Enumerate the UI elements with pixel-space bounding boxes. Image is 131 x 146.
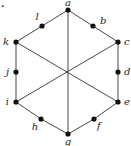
vertex-j (13, 69, 18, 74)
vertex-a (65, 7, 70, 12)
edge-h-i (16, 102, 41, 119)
vertex-label-h: h (32, 121, 38, 132)
vertex-label-c: c (124, 36, 130, 47)
edges-group (16, 10, 118, 134)
edge-g-h (41, 119, 68, 134)
vertex-label-d: d (124, 66, 130, 77)
vertex-label-a: a (65, 0, 71, 8)
edge-b-c (93, 26, 118, 42)
vertex-label-l: l (35, 11, 38, 22)
vertex-label-j: j (4, 66, 9, 77)
hexagon-graph-diagram: . abcdefghijkl (0, 0, 131, 146)
vertex-h (38, 116, 43, 121)
vertex-b (90, 23, 95, 28)
edge-e-f (94, 102, 118, 119)
vertex-k (13, 39, 18, 44)
edge-l-a (42, 10, 68, 26)
vertex-label-b: b (100, 15, 106, 26)
vertex-i (13, 99, 18, 104)
edge-a-b (68, 10, 93, 26)
vertex-label-g: g (65, 136, 71, 146)
vertex-l (39, 23, 44, 28)
vertex-f (91, 116, 96, 121)
vertex-label-i: i (6, 96, 9, 107)
vertex-label-k: k (3, 36, 9, 47)
corner-label: . (1, 0, 4, 9)
vertex-c (115, 39, 120, 44)
vertex-d (115, 69, 120, 74)
labels-group: abcdefghijkl (3, 0, 130, 146)
edge-k-l (16, 26, 42, 42)
vertex-label-f: f (96, 120, 103, 131)
vertex-e (115, 99, 120, 104)
edge-f-g (68, 119, 94, 134)
vertex-label-e: e (124, 96, 130, 107)
